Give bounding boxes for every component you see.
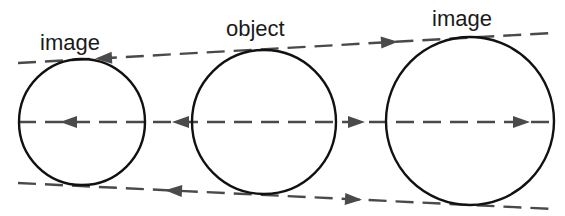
label-object: object [226,16,285,41]
label-left-image: image [40,30,100,55]
arrow-left-icon [172,116,189,128]
arrow-left-icon [60,116,77,128]
label-right-image: image [432,6,492,31]
arrow-right-icon [345,193,363,206]
arrow-right-icon [348,116,365,128]
arrow-right-icon [381,36,399,49]
arrow-right-icon [513,116,530,128]
arrow-left-icon [165,184,183,197]
arrowheads-group [60,36,530,206]
ray-diagram: image object image [0,0,565,216]
